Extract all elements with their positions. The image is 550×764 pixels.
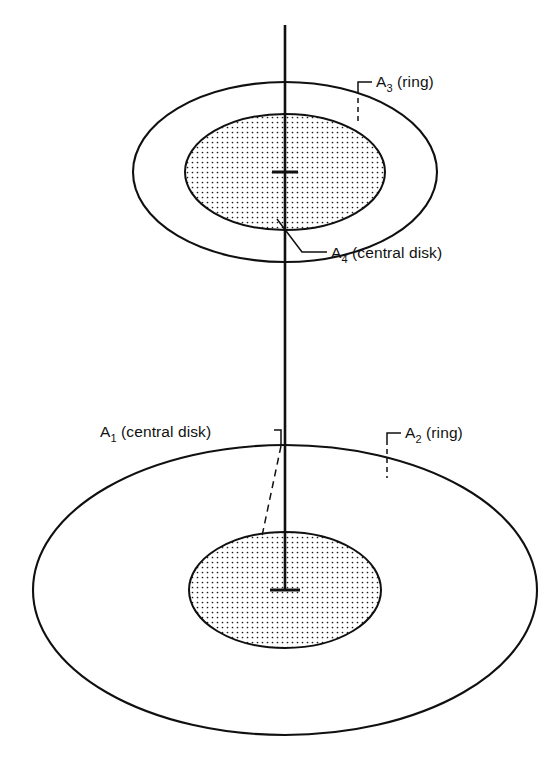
label-a2-descriptor-text: (ring) [426, 424, 463, 441]
label-a1-descriptor-text: (central disk) [121, 423, 211, 440]
label-a3-ring: A3 (ring) [376, 73, 434, 94]
label-a2-ring: A2 (ring) [405, 424, 463, 445]
label-a1-symbol: A [100, 423, 111, 440]
a1-leader-hook [274, 430, 281, 446]
label-a3-symbol: A [376, 73, 387, 90]
a2-leader-hook [387, 433, 401, 440]
label-a4-symbol: A [331, 244, 342, 261]
label-a4-descriptor-text: (central disk) [352, 244, 442, 261]
a3-leader-hook [358, 82, 372, 89]
label-a2-symbol: A [405, 424, 416, 441]
label-a3-descriptor-text: (ring) [397, 73, 434, 90]
diagram-canvas: A3 (ring) A4 (central disk) A1 (central … [0, 0, 550, 764]
label-a1-central-disk: A1 (central disk) [100, 423, 211, 444]
label-a4-central-disk: A4 (central disk) [331, 244, 442, 265]
figure-root: A3 (ring) A4 (central disk) A1 (central … [0, 0, 550, 764]
